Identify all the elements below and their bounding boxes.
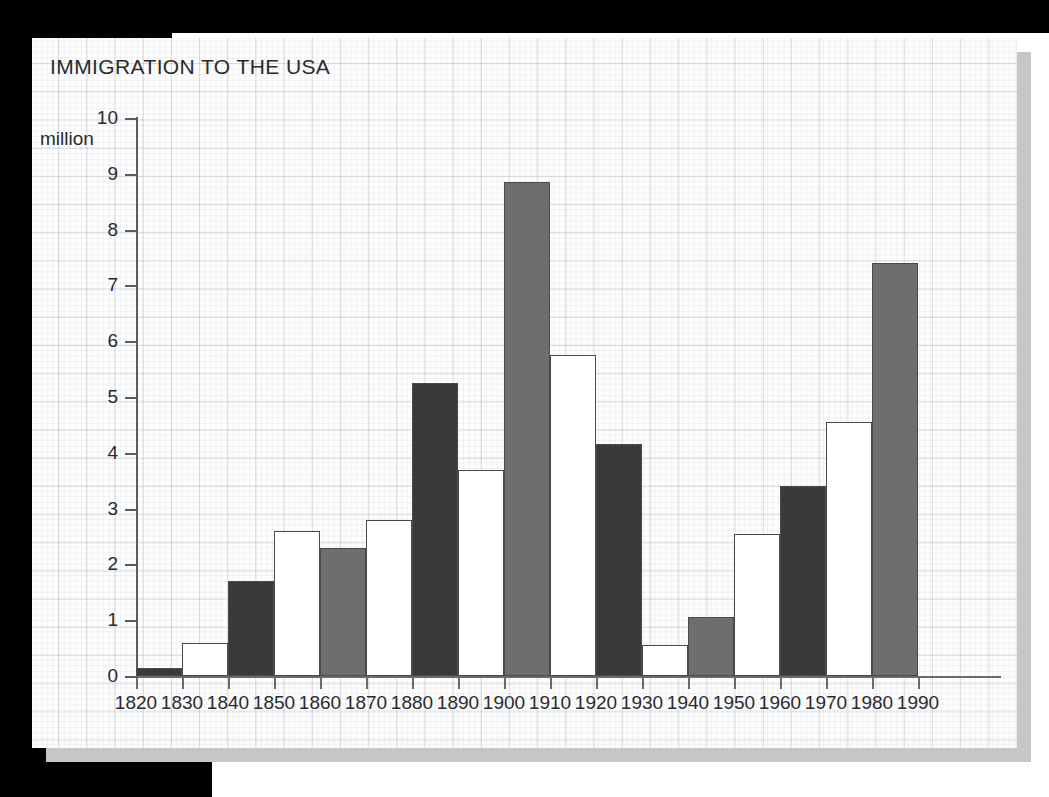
- bar-1900: [504, 182, 550, 676]
- x-axis-tick-label: 1920: [572, 692, 620, 714]
- y-axis-tick-label: 8: [60, 219, 118, 241]
- y-axis-tick-label: 3: [60, 498, 118, 520]
- x-axis-tick-label: 1980: [848, 692, 896, 714]
- x-axis-tick-mark: [550, 678, 552, 689]
- bar-1940: [688, 617, 734, 676]
- x-axis-tick-mark: [734, 678, 736, 689]
- x-axis-tick-label: 1950: [710, 692, 758, 714]
- bar-1910: [550, 355, 596, 676]
- bar-1820: [136, 668, 182, 676]
- bar-1850: [274, 531, 320, 676]
- y-axis-tick-mark: [125, 230, 137, 232]
- x-axis-tick-mark: [320, 678, 322, 689]
- bar-1840: [228, 581, 274, 676]
- y-axis-unit-label: million: [40, 128, 94, 150]
- x-axis-tick-label: 1940: [664, 692, 712, 714]
- bar-chart-plot-area: million 012345678910 1820183018401850186…: [32, 38, 1017, 748]
- bar-1970: [826, 422, 872, 676]
- x-axis-tick-label: 1860: [296, 692, 344, 714]
- x-axis-tick-label: 1840: [204, 692, 252, 714]
- x-axis-tick-mark: [182, 678, 184, 689]
- y-axis-tick-mark: [125, 509, 137, 511]
- backdrop-black-top-band: [0, 0, 1049, 33]
- x-axis-tick-label: 1970: [802, 692, 850, 714]
- y-axis-tick-mark: [125, 174, 137, 176]
- x-axis-tick-label: 1870: [342, 692, 390, 714]
- bar-1930: [642, 645, 688, 676]
- x-axis-tick-mark: [504, 678, 506, 689]
- bar-1960: [780, 486, 826, 676]
- bar-1860: [320, 548, 366, 676]
- bar-1980: [872, 263, 918, 676]
- y-axis-tick-mark: [125, 285, 137, 287]
- x-axis-tick-mark: [366, 678, 368, 689]
- y-axis-tick-mark: [125, 453, 137, 455]
- x-axis-tick-label: 1890: [434, 692, 482, 714]
- y-axis-tick-label: 5: [60, 386, 118, 408]
- x-axis-tick-mark: [596, 678, 598, 689]
- x-axis-tick-mark: [780, 678, 782, 689]
- x-axis-tick-label: 1820: [112, 692, 160, 714]
- bar-1830: [182, 643, 228, 676]
- bar-1920: [596, 444, 642, 676]
- y-axis-tick-label: 10: [60, 107, 118, 129]
- x-axis-tick-label: 1900: [480, 692, 528, 714]
- x-axis-tick-label: 1910: [526, 692, 574, 714]
- y-axis-tick-mark: [125, 564, 137, 566]
- x-axis-tick-mark: [872, 678, 874, 689]
- x-axis-tick-label: 1830: [158, 692, 206, 714]
- x-axis-tick-mark: [826, 678, 828, 689]
- x-axis-tick-mark: [458, 678, 460, 689]
- x-axis-tick-label: 1960: [756, 692, 804, 714]
- y-axis-tick-label: 2: [60, 553, 118, 575]
- x-axis-tick-mark: [642, 678, 644, 689]
- bar-1950: [734, 534, 780, 676]
- y-axis-tick-label: 0: [60, 665, 118, 687]
- bar-1890: [458, 470, 504, 676]
- x-axis-tick-mark: [412, 678, 414, 689]
- y-axis-tick-label: 4: [60, 442, 118, 464]
- y-axis-tick-mark: [125, 397, 137, 399]
- graph-paper-sheet: IMMIGRATION TO THE USA million 012345678…: [32, 38, 1017, 748]
- y-axis-tick-mark: [125, 118, 137, 120]
- x-axis-tick-label: 1930: [618, 692, 666, 714]
- bar-1880: [412, 383, 458, 676]
- x-axis-tick-label: 1880: [388, 692, 436, 714]
- y-axis-tick-mark: [125, 341, 137, 343]
- x-axis-tick-mark: [918, 678, 920, 689]
- bar-1870: [366, 520, 412, 676]
- x-axis-tick-mark: [228, 678, 230, 689]
- x-axis-tick-label: 1990: [894, 692, 942, 714]
- x-axis-tick-mark: [274, 678, 276, 689]
- y-axis-tick-mark: [125, 620, 137, 622]
- x-axis-tick-mark: [688, 678, 690, 689]
- y-axis-tick-label: 9: [60, 163, 118, 185]
- y-axis-tick-label: 7: [60, 274, 118, 296]
- x-axis-tick-mark: [136, 678, 138, 689]
- y-axis-tick-label: 6: [60, 330, 118, 352]
- x-axis-tick-label: 1850: [250, 692, 298, 714]
- y-axis-tick-label: 1: [60, 609, 118, 631]
